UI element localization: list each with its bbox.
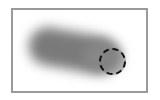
canvas-frame[interactable] <box>11 8 148 93</box>
brush-cursor-icon[interactable] <box>99 48 126 75</box>
